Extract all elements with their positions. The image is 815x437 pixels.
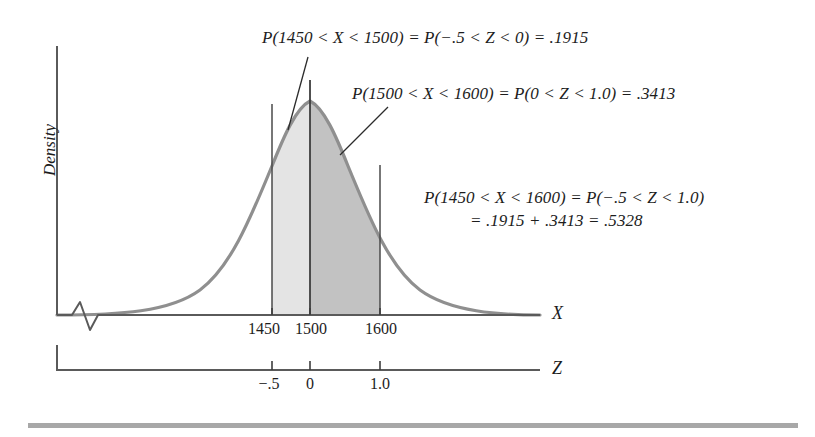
bottom-divider-rule (28, 423, 798, 428)
figure-canvas (0, 0, 815, 437)
z-axis (57, 345, 540, 370)
density-axis-label: Density (40, 95, 60, 205)
z-tick-label-minus-half: −.5 (248, 375, 290, 393)
x-tick-label-1600: 1600 (355, 320, 407, 338)
x-tick-label-1500: 1500 (285, 320, 337, 338)
z-tick-label-zero: 0 (291, 375, 329, 393)
annotation-third-probability-line2: = .1915 + .3413 = .5328 (470, 211, 643, 231)
normal-distribution-figure: Density P(1450 < X < 1500) = P(−.5 < Z <… (0, 0, 815, 437)
x-tick-label-1450: 1450 (238, 320, 290, 338)
z-tick-label-one: 1.0 (356, 375, 404, 393)
annotation-second-probability: P(1500 < X < 1600) = P(0 < Z < 1.0) = .3… (352, 84, 675, 104)
shaded-region-light (272, 80, 310, 316)
z-axis-letter: Z (552, 358, 562, 379)
leader-line-second-annotation (340, 107, 388, 155)
shaded-region-dark (310, 80, 380, 316)
x-axis-letter: X (552, 303, 563, 324)
annotation-third-probability-line1: P(1450 < X < 1600) = P(−.5 < Z < 1.0) (424, 188, 704, 208)
annotation-first-probability: P(1450 < X < 1500) = P(−.5 < Z < 0) = .1… (262, 28, 588, 48)
